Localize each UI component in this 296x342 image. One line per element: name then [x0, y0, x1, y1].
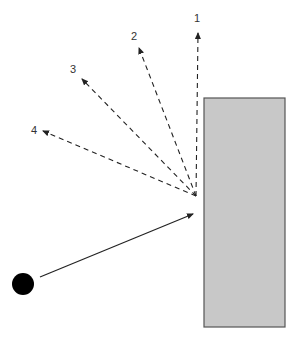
rebound-arrow-3 [82, 79, 196, 196]
rebound-label-1: 1 [194, 12, 200, 24]
wall [204, 98, 285, 327]
rebound-arrow-1 [196, 33, 198, 196]
incident-arrow [40, 214, 193, 277]
rebound-label-4: 4 [31, 124, 37, 136]
rebound-arrow-2 [139, 48, 196, 196]
diagram-canvas [0, 0, 296, 342]
ball [12, 273, 34, 295]
rebound-arrow-4 [43, 131, 196, 196]
rebound-label-2: 2 [131, 30, 137, 42]
rebound-label-3: 3 [70, 63, 76, 75]
